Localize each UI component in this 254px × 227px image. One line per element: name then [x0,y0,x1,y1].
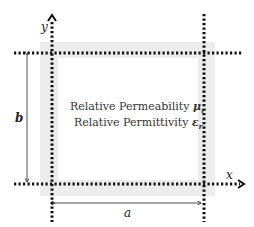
y-axis-label: y [41,20,48,34]
x-axis-arrow-icon [238,180,244,188]
waveguide-diagram: y x b a Relative Permeability μr Relativ… [0,0,254,227]
permeability-label: Relative Permeability μr [70,100,205,115]
mu-symbol: μ [193,100,201,113]
y-axis-arrow-icon [48,15,56,21]
x-axis-label: x [226,168,233,182]
permittivity-label: Relative Permittivity εr [74,116,203,131]
height-label: b [15,111,23,125]
width-label: a [124,206,131,220]
epsilon-symbol: ε [192,116,199,129]
